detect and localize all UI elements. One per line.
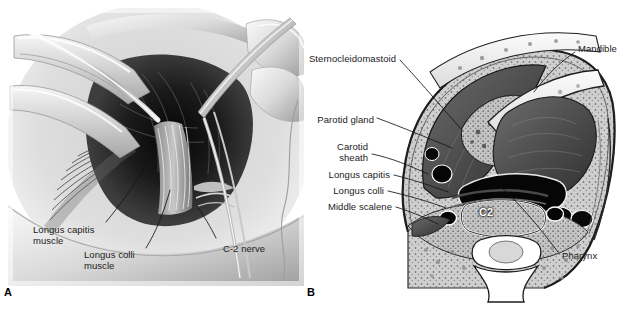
c2-vertebral-body bbox=[461, 200, 545, 237]
carotid-sheath-vessel bbox=[432, 165, 452, 183]
label-c2-vertebral-body: C2 bbox=[479, 206, 493, 218]
label-carotid-sheath: Carotid sheath bbox=[246, 141, 368, 163]
internal-jugular-vein bbox=[425, 148, 439, 161]
label-longus-capitis-muscle: Longus capitis muscle bbox=[33, 224, 94, 246]
label-middle-scalene: Middle scalene bbox=[246, 201, 392, 212]
label-longus-colli: Longus colli bbox=[246, 185, 384, 196]
label-longus-colli-muscle: Longus colli muscle bbox=[84, 249, 135, 271]
label-longus-capitis: Longus capitis bbox=[246, 169, 390, 180]
label-mandible: Mandible bbox=[578, 43, 617, 54]
anatomy-figure: Longus capitis muscle Longus colli muscl… bbox=[0, 0, 625, 310]
transverse-foramen-right bbox=[547, 207, 564, 221]
label-parotid-gland: Parotid gland bbox=[246, 114, 374, 125]
label-sternocleidomastoid: Sternocleidomastoid bbox=[246, 53, 396, 64]
panel-letter-a: A bbox=[4, 286, 12, 298]
label-c2-nerve: C-2 nerve bbox=[223, 243, 265, 254]
panel-letter-b: B bbox=[307, 286, 315, 298]
label-pharynx: Pharynx bbox=[562, 250, 597, 261]
spinal-cord bbox=[489, 241, 523, 263]
